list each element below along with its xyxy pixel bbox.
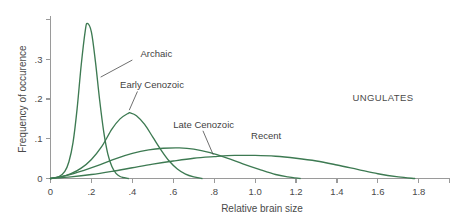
leader-line-archaic [101, 60, 133, 77]
x-tick-label: 1.0 [249, 186, 262, 197]
x-tick-label: .8 [210, 186, 218, 197]
group-label: UNGULATES [353, 92, 414, 103]
x-axis-title: Relative brain size [221, 203, 303, 214]
x-tick-label: .2 [87, 186, 95, 197]
axes: 0.2.4.6.81.01.21.41.61.80.1.2.3 [35, 16, 450, 197]
x-tick-label: 1.4 [330, 186, 343, 197]
curve-archaic [51, 23, 129, 178]
x-tick-label: .6 [169, 186, 177, 197]
y-tick-label: .1 [35, 133, 43, 144]
y-tick-label: 0 [37, 173, 42, 184]
annotation-leaders [101, 60, 214, 155]
y-tick-label: .2 [35, 93, 43, 104]
y-tick-label: .3 [35, 54, 43, 65]
x-tick-label: .4 [128, 186, 136, 197]
series-label-late-cenozoic: Late Cenozoic [173, 119, 234, 130]
annotation-labels: ArchaicEarly CenozoicLate CenozoicRecent [120, 48, 281, 140]
series-label-recent: Recent [251, 130, 281, 141]
chart-canvas: 0.2.4.6.81.01.21.41.61.80.1.2.3 ArchaicE… [0, 0, 465, 221]
leader-line-early-cenozoic [129, 91, 137, 110]
x-tick-label: 1.8 [412, 186, 425, 197]
chart-figure: 0.2.4.6.81.01.21.41.61.80.1.2.3 ArchaicE… [0, 0, 465, 221]
y-axis-title: Frequency of occurence [17, 45, 28, 153]
series-label-early-cenozoic: Early Cenozoic [120, 79, 184, 90]
x-tick-label: 0 [48, 186, 53, 197]
x-tick-label: 1.2 [289, 186, 302, 197]
x-tick-label: 1.6 [371, 186, 384, 197]
series-label-archaic: Archaic [141, 48, 173, 59]
curve-recent [51, 155, 415, 178]
